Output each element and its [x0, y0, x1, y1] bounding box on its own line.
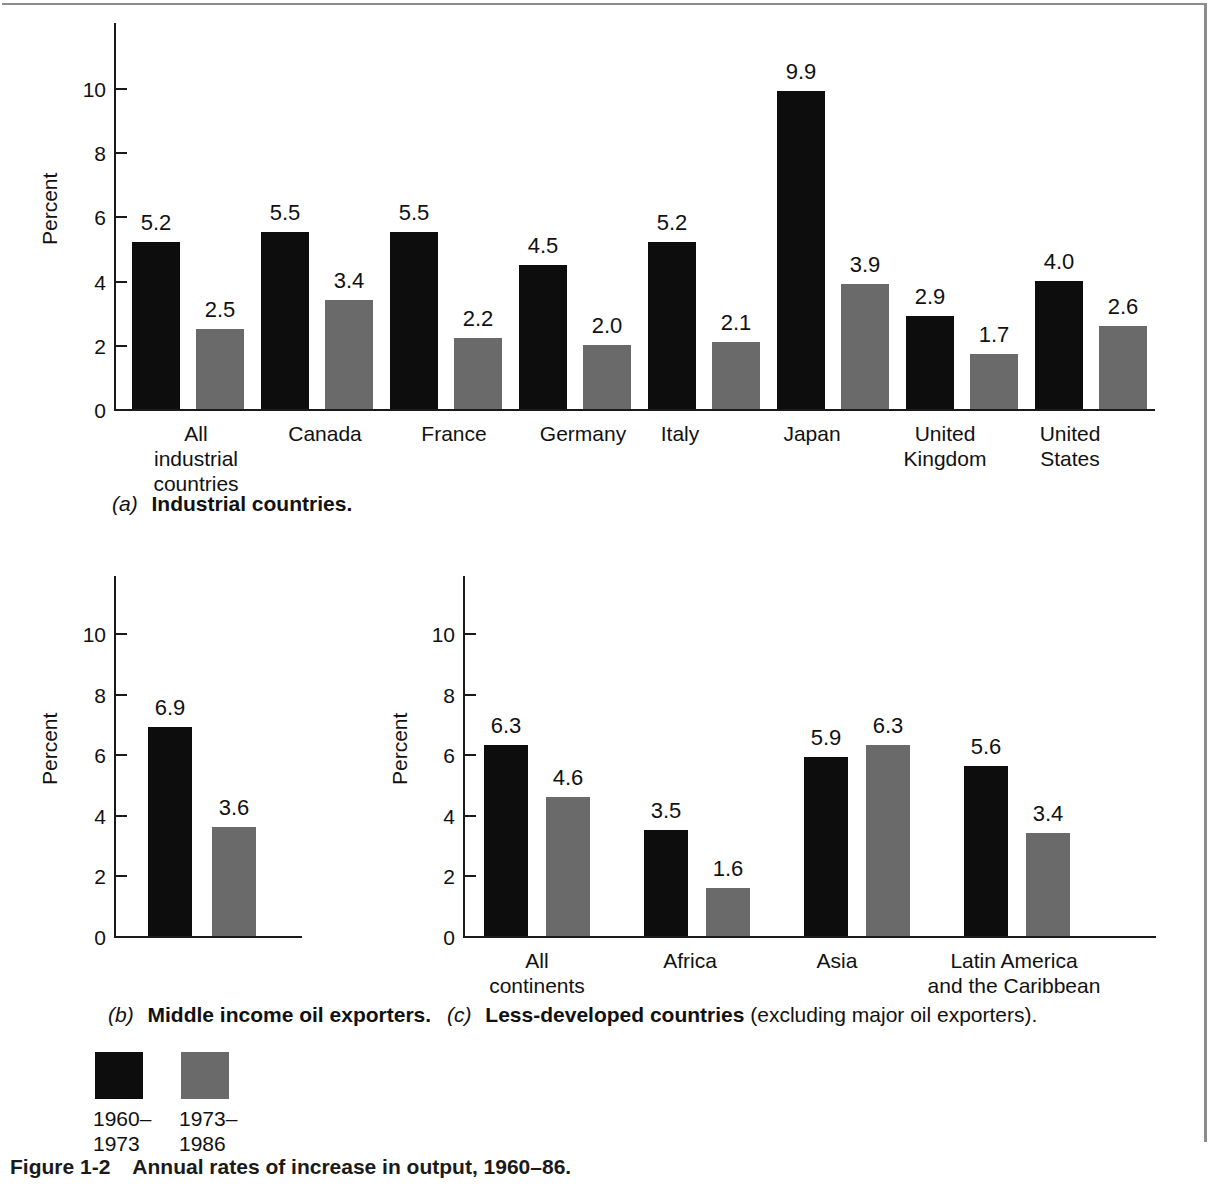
caption-a-tag: (a): [112, 492, 138, 515]
caption-b-tag: (b): [108, 1003, 134, 1026]
bar-value-label: 5.5: [245, 202, 325, 224]
bar-value-label: 5.2: [632, 212, 712, 234]
figure-caption-text: Annual rates of increase in output, 1960…: [132, 1155, 571, 1178]
figure-caption: Figure 1-2Annual rates of increase in ou…: [10, 1155, 571, 1179]
x-axis-category-label-line: industrial: [36, 446, 356, 471]
bar-value-label: 2.5: [180, 299, 260, 321]
legend-label-1960-1973-line2: 1973: [93, 1131, 151, 1156]
bar-value-label: 4.0: [1019, 251, 1099, 273]
bar: [583, 345, 631, 409]
y-axis-tick-10: [465, 633, 476, 635]
x-axis-category-label: UnitedStates: [910, 421, 1217, 471]
bar-value-label: 3.5: [626, 800, 706, 822]
bar-value-label: 6.9: [130, 697, 210, 719]
bar: [970, 354, 1018, 409]
chart-b-plot-area: 0246810Percent6.93.6: [0, 540, 400, 1060]
bar: [132, 242, 180, 409]
y-axis-tick-2: [465, 875, 476, 877]
caption-panel-b: (b) Middle income oil exporters.: [108, 1003, 431, 1027]
legend-swatch-1973-1986: [181, 1052, 229, 1099]
bar: [484, 745, 528, 936]
y-axis-tick-6: [116, 754, 127, 756]
bar: [804, 757, 848, 936]
legend-label-1973-1986-line2: 1986: [179, 1131, 237, 1156]
y-axis-tick-label-0: 0: [62, 927, 106, 948]
legend-label-1960-1973: 1960– 1973: [93, 1106, 151, 1156]
legend-label-1960-1973-line1: 1960–: [93, 1106, 151, 1131]
caption-b-bold: Middle income oil exporters.: [148, 1003, 432, 1026]
bar: [148, 727, 192, 936]
bar: [325, 300, 373, 409]
y-axis-tick-8: [465, 694, 476, 696]
bar: [712, 342, 760, 409]
x-axis-category-label-line: United: [910, 421, 1217, 446]
panel-middle-income-oil-exporters: 0246810Percent6.93.6: [0, 540, 400, 1060]
y-axis-tick-label-4: 4: [62, 806, 106, 827]
bar-value-label: 6.3: [848, 715, 928, 737]
x-axis-line: [114, 936, 302, 938]
bar-value-label: 2.0: [567, 315, 647, 337]
caption-c-rest: (excluding major oil exporters).: [744, 1003, 1037, 1026]
bar-value-label: 4.5: [503, 235, 583, 257]
bar-value-label: 3.9: [825, 254, 905, 276]
y-axis-tick-10: [116, 633, 127, 635]
y-axis-tick-6: [465, 754, 476, 756]
caption-c-tag: (c): [447, 1003, 472, 1026]
bar-value-label: 1.7: [954, 324, 1034, 346]
chart-a-plot-area: 0246810Percent5.22.5Allindustrialcountri…: [0, 0, 1217, 540]
caption-a-bold: Industrial countries.: [152, 492, 353, 515]
bar: [454, 338, 502, 409]
bar: [648, 242, 696, 409]
bar: [546, 797, 590, 936]
figure-legend: 1960– 1973 1973– 1986: [95, 1052, 355, 1162]
y-axis-tick-label-0: 0: [411, 927, 455, 948]
bar-value-label: 2.6: [1083, 296, 1163, 318]
x-axis-category-label-line: States: [910, 446, 1217, 471]
y-axis-tick-label-10: 10: [62, 79, 106, 100]
y-axis-title: Percent: [388, 713, 412, 785]
bar-value-label: 2.1: [696, 312, 776, 334]
figure-page: 0246810Percent5.22.5Allindustrialcountri…: [0, 0, 1217, 1191]
bar: [1099, 326, 1147, 409]
panel-industrial-countries: 0246810Percent5.22.5Allindustrialcountri…: [0, 0, 1217, 540]
x-axis-line: [463, 936, 1156, 938]
y-axis-tick-0: [465, 936, 476, 938]
caption-c-bold: Less-developed countries: [485, 1003, 744, 1026]
x-axis-category-label-line: Latin America: [854, 948, 1174, 973]
bar-value-label: 3.6: [194, 797, 274, 819]
y-axis-tick-label-8: 8: [411, 685, 455, 706]
panel-less-developed-countries: 0246810Percent6.34.6Allcontinents3.51.6A…: [400, 540, 1217, 1060]
y-axis-tick-8: [116, 152, 127, 154]
bar: [196, 329, 244, 409]
x-axis-category-label-line: and the Caribbean: [854, 973, 1174, 998]
y-axis-tick-2: [116, 875, 127, 877]
bar: [841, 284, 889, 409]
legend-label-1973-1986: 1973– 1986: [179, 1106, 237, 1156]
y-axis-line: [114, 576, 116, 938]
bar-value-label: 5.5: [374, 202, 454, 224]
y-axis-tick-label-6: 6: [62, 745, 106, 766]
y-axis-tick-label-2: 2: [411, 866, 455, 887]
x-axis-line: [114, 409, 1155, 411]
y-axis-tick-label-4: 4: [62, 272, 106, 293]
bar: [261, 232, 309, 409]
bar-value-label: 9.9: [761, 61, 841, 83]
caption-panel-a: (a) Industrial countries.: [112, 492, 352, 516]
y-axis-tick-4: [465, 815, 476, 817]
y-axis-tick-label-4: 4: [411, 806, 455, 827]
bar-value-label: 1.6: [688, 858, 768, 880]
y-axis-tick-10: [116, 88, 127, 90]
bar: [706, 888, 750, 936]
y-axis-tick-label-8: 8: [62, 143, 106, 164]
y-axis-tick-0: [116, 936, 127, 938]
bar: [1035, 281, 1083, 409]
y-axis-tick-label-2: 2: [62, 866, 106, 887]
x-axis-category-label-line: continents: [377, 973, 697, 998]
y-axis-tick-8: [116, 694, 127, 696]
bar: [964, 766, 1008, 936]
bar: [866, 745, 910, 936]
y-axis-tick-label-6: 6: [62, 207, 106, 228]
bar: [777, 91, 825, 409]
y-axis-tick-label-8: 8: [62, 685, 106, 706]
caption-panel-c: (c) Less-developed countries (excluding …: [447, 1003, 1037, 1027]
